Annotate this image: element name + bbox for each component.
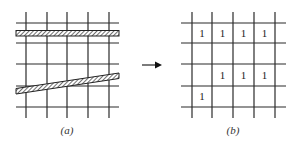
raster-cell: 1 [220, 69, 226, 81]
horizontal-line-feature [16, 31, 119, 37]
raster-cell: 1 [241, 27, 247, 39]
raster-cell: 1 [241, 69, 247, 81]
caption-b: (b) [227, 124, 240, 137]
raster-cell: 1 [199, 27, 205, 39]
panel-b-raster-grid: 1 1 1 1 1 1 1 1 (b) [181, 12, 286, 137]
panel-a-vector-grid: (a) [16, 12, 119, 137]
raster-conversion-diagram: (a) 1 1 1 1 1 1 1 1 ( [0, 0, 296, 142]
arrow-right-icon [142, 62, 162, 69]
raster-cell: 1 [262, 69, 268, 81]
raster-cell: 1 [199, 90, 205, 102]
caption-a: (a) [61, 124, 74, 137]
raster-cell: 1 [262, 27, 268, 39]
raster-cell: 1 [220, 27, 226, 39]
